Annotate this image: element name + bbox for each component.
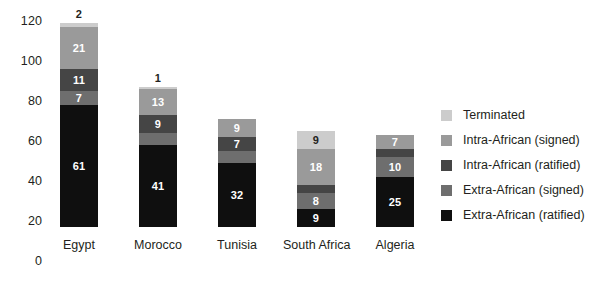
- y-axis-tick-label: 120: [8, 15, 42, 28]
- bar-segment-value: 11: [73, 75, 85, 86]
- bar-segment[interactable]: 25: [376, 177, 414, 227]
- bar-segment-value: 9: [234, 123, 240, 134]
- legend-swatch-icon: [441, 210, 452, 221]
- chart-legend: TerminatedIntra-African (signed)Intra-Af…: [441, 103, 585, 228]
- legend-swatch-icon: [441, 160, 452, 171]
- stacked-bar[interactable]: 251047: [376, 135, 414, 227]
- legend-label: Extra-African (ratified): [463, 209, 585, 222]
- bar-segment[interactable]: 2: [60, 23, 98, 27]
- bar-segment[interactable]: 18: [297, 149, 335, 185]
- legend-item[interactable]: Terminated: [441, 103, 585, 128]
- bar-segment-value: 41: [152, 181, 165, 192]
- bar-segment-value: 21: [73, 43, 86, 54]
- bar-segment-value: 32: [231, 190, 244, 201]
- y-axis-tick-label: 0: [8, 255, 42, 268]
- stacked-bar[interactable]: 61711212: [60, 23, 98, 227]
- bar-segment[interactable]: 8: [297, 193, 335, 209]
- bar-segment[interactable]: 7: [218, 137, 256, 151]
- bar-segment-value: 18: [310, 162, 323, 173]
- legend-swatch-icon: [441, 135, 452, 146]
- legend-item[interactable]: Extra-African (ratified): [441, 203, 585, 228]
- bar-segment[interactable]: 21: [60, 27, 98, 69]
- bar-segment[interactable]: 13: [139, 89, 177, 115]
- bar-segment[interactable]: 32: [218, 163, 256, 227]
- plot-area: 61711212Egypt4169131Morocco32679Tunisia9…: [52, 15, 430, 267]
- bar-segment[interactable]: 11: [60, 69, 98, 91]
- bar-segment[interactable]: 9: [218, 119, 256, 137]
- bar-segment[interactable]: 4: [297, 185, 335, 193]
- bar-segment[interactable]: 6: [139, 133, 177, 145]
- legend-label: Intra-African (ratified): [463, 159, 580, 172]
- bar-segment-value: 25: [389, 197, 402, 208]
- bar-segment[interactable]: 41: [139, 145, 177, 227]
- x-axis-category-label: Algeria: [362, 239, 428, 252]
- y-axis-tick-label: 60: [8, 135, 42, 148]
- y-axis-tick-label: 40: [8, 175, 42, 188]
- bar-segment[interactable]: 7: [376, 135, 414, 149]
- bar-segment-value: 10: [389, 162, 402, 173]
- stacked-bar[interactable]: 32679: [218, 119, 256, 227]
- bar-segment[interactable]: 61: [60, 105, 98, 227]
- bar-segment-value: 7: [234, 139, 240, 150]
- bar-segment-value: 9: [313, 213, 319, 224]
- y-axis-tick-label: 100: [8, 55, 42, 68]
- legend-label: Intra-African (signed): [463, 134, 580, 147]
- bar-segment-value: 8: [313, 196, 319, 207]
- legend-label: Terminated: [463, 109, 525, 122]
- bar-segment-value: 61: [73, 161, 86, 172]
- bar-segment-value: 13: [152, 97, 165, 108]
- legend-swatch-icon: [441, 110, 452, 121]
- bar-segment-value: 7: [76, 93, 82, 104]
- legend-item[interactable]: Extra-African (signed): [441, 178, 585, 203]
- x-axis-category-label: Egypt: [46, 239, 112, 252]
- x-axis-category-label: South Africa: [283, 239, 349, 252]
- bar-segment-value: 7: [392, 137, 398, 148]
- bar-segment[interactable]: 9: [139, 115, 177, 133]
- legend-item[interactable]: Intra-African (signed): [441, 128, 585, 153]
- x-axis-category-label: Morocco: [125, 239, 191, 252]
- stacked-bar-chart: 61711212Egypt4169131Morocco32679Tunisia9…: [0, 0, 614, 301]
- bar-segment[interactable]: 4: [376, 149, 414, 157]
- bar-segment-value: 2: [60, 9, 98, 20]
- bar-segment-value: 1: [139, 73, 177, 84]
- bar-segment[interactable]: 7: [60, 91, 98, 105]
- legend-label: Extra-African (signed): [463, 184, 584, 197]
- bar-segment-value: 9: [313, 135, 319, 146]
- stacked-bar[interactable]: 4169131: [139, 87, 177, 227]
- bar-segment-value: 9: [155, 119, 161, 130]
- x-axis-category-label: Tunisia: [204, 239, 270, 252]
- bar-segment[interactable]: 10: [376, 157, 414, 177]
- bar-segment[interactable]: 9: [297, 209, 335, 227]
- stacked-bar[interactable]: 984189: [297, 131, 335, 227]
- bar-segment[interactable]: 6: [218, 151, 256, 163]
- legend-swatch-icon: [441, 185, 452, 196]
- legend-item[interactable]: Intra-African (ratified): [441, 153, 585, 178]
- y-axis-tick-label: 20: [8, 215, 42, 228]
- bar-segment[interactable]: 1: [139, 87, 177, 89]
- y-axis-tick-label: 80: [8, 95, 42, 108]
- bar-segment[interactable]: 9: [297, 131, 335, 149]
